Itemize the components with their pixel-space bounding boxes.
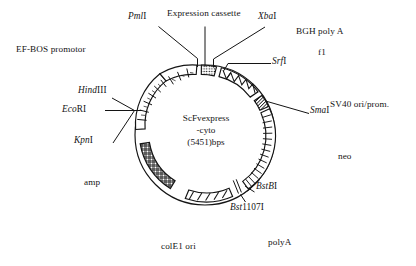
- enzyme-pmli-italic: Pml: [128, 11, 143, 21]
- enzyme-pmli-roman: I: [143, 11, 146, 21]
- enzyme-ecori-italic: Eco: [62, 104, 77, 114]
- segment-cole1-ori: [185, 188, 232, 202]
- label-amp: amp: [84, 178, 100, 188]
- leader-xbai: [214, 27, 266, 68]
- enzyme-label-smai: SmaI: [310, 106, 330, 116]
- enzyme-label-pmli: PmlI: [128, 12, 146, 22]
- plasmid-name-line1: ScFvexpress: [171, 113, 241, 125]
- segment-expression-cassette: [201, 65, 216, 76]
- enzyme-srfi-italic: Srf: [272, 56, 283, 66]
- plasmid-map-figure: PmlI Expression cassette XbaI BGH poly A…: [0, 0, 416, 266]
- segment-ef-bos-promotor: [135, 74, 166, 130]
- enzyme-smai-italic: Sma: [310, 105, 326, 115]
- enzyme-label-xbai: XbaI: [258, 12, 276, 22]
- enzyme-kpni-italic: Kpn: [74, 135, 90, 145]
- enzyme-label-kpni: KpnI: [74, 136, 93, 146]
- enzyme-label-bstbi: BstBI: [256, 182, 277, 192]
- segment-neo: [243, 109, 276, 189]
- plasmid-name-line2: -cyto: [171, 125, 241, 137]
- enzyme-bstbi-italic: BstB: [256, 181, 274, 191]
- enzyme-hindiii-roman: III: [97, 85, 107, 95]
- plasmid-size-line: (5451)bps: [171, 137, 241, 149]
- label-expression-cassette: Expression cassette: [167, 9, 241, 19]
- segment-bgh-poly-a: [219, 68, 258, 97]
- label-poly-a: polyA: [268, 238, 291, 248]
- enzyme-srfi-roman: I: [283, 56, 286, 66]
- label-sv40-ori-prom: SV40 ori/prom.: [330, 100, 389, 110]
- label-bgh-poly-a: BGH poly A: [296, 27, 343, 37]
- leader-smai: [266, 101, 310, 114]
- enzyme-label-bst1107i: Bst1107I: [230, 203, 264, 213]
- segment-amp: [140, 142, 175, 188]
- label-f1: f1: [318, 48, 326, 58]
- plasmid-center-annotation: ScFvexpress -cyto (5451)bps: [171, 113, 241, 148]
- label-cole1-ori: colE1 ori: [161, 242, 196, 252]
- label-ef-bos-promotor: EF-BOS promotor: [16, 45, 86, 55]
- enzyme-xbai-italic: Xba: [258, 11, 273, 21]
- enzyme-kpni-roman: I: [90, 135, 93, 145]
- enzyme-label-hindiii: HindIII: [78, 86, 107, 96]
- label-neo: neo: [338, 152, 352, 162]
- enzyme-label-srfi: SrfI: [272, 57, 286, 67]
- enzyme-xbai-roman: I: [273, 11, 276, 21]
- enzyme-bst1107i-italic: Bst: [230, 202, 242, 212]
- segment-sv40-ori-prom: [254, 95, 268, 110]
- enzyme-label-ecori: EcoRI: [62, 105, 86, 115]
- enzyme-bst1107i-roman: 1107I: [242, 202, 264, 212]
- leader-hindiii: [112, 98, 135, 111]
- leader-kpni: [113, 111, 135, 144]
- enzyme-ecori-roman: RI: [77, 104, 87, 114]
- enzyme-bstbi-roman: I: [274, 181, 277, 191]
- enzyme-hindiii-italic: Hind: [78, 85, 97, 95]
- leader-pmli: [159, 27, 198, 68]
